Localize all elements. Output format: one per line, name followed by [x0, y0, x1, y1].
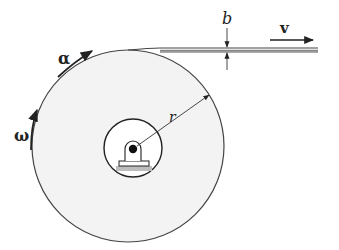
thickness-label: b	[222, 9, 232, 28]
velocity-label: v	[279, 19, 290, 37]
alpha-label: α	[58, 49, 70, 68]
tape	[128, 48, 318, 52]
axle-icon	[129, 145, 137, 153]
ground-hatch	[116, 166, 152, 171]
omega-label: ω	[14, 126, 29, 145]
reel-diagram: b v α ω r	[0, 0, 339, 250]
bearing-base	[119, 161, 149, 166]
